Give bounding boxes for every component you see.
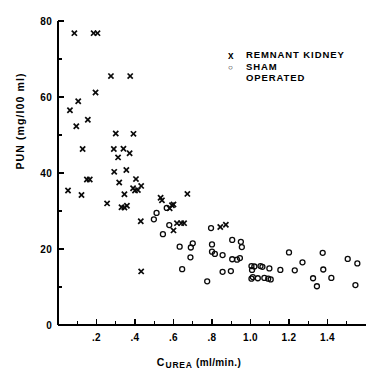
scatter-plot-figure: 020406080.2.4.6.81.01.21.4 PUN (mg/I00 m… [0,0,388,382]
legend-item-sham-operated: ○ SHAM OPERATED [228,62,384,83]
data-point-x [131,131,136,136]
data-point-x [124,167,129,172]
data-point-x [108,74,113,79]
data-point-circle [355,261,360,266]
data-point-circle [287,250,292,255]
data-point-circle [167,223,172,228]
data-point-x [111,146,116,151]
data-point-circle [292,268,297,273]
x-axis-label: CUREA (ml/min.) [157,356,241,368]
legend-item-remnant-kidney: x REMNANT KIDNEY [228,50,384,61]
data-point-circle [209,226,214,231]
data-point-x [74,124,79,129]
data-point-x [124,203,129,208]
data-point-x [85,117,90,122]
data-point-circle [160,232,165,237]
data-point-circle [180,267,185,272]
x-axis-label-wrapper: CUREA (ml/min.) [104,352,294,370]
x-axis-tick-label: .8 [208,332,217,343]
data-point-x [122,192,127,197]
data-point-circle [353,283,358,288]
x-axis-label-subscript: UREA [165,360,192,370]
data-point-circle [210,242,215,247]
legend-x-marker-icon: x [228,50,246,61]
data-point-circle [311,276,316,281]
x-axis-tick-label: 1.0 [243,332,258,343]
data-point-x [127,151,132,156]
data-point-circle [238,239,243,244]
legend-label-sham-operated: SHAM OPERATED [246,62,305,83]
series-remnant-kidney-points [65,31,228,274]
data-point-x [79,192,84,197]
y-axis-tick-label: 40 [40,168,52,179]
legend: x REMNANT KIDNEY ○ SHAM OPERATED [228,50,384,84]
data-point-circle [255,276,260,281]
y-axis-tick-label: 60 [40,92,52,103]
x-axis-tick-label: .4 [131,332,140,343]
legend-label-remnant-kidney: REMNANT KIDNEY [246,50,345,61]
data-point-circle [239,245,244,250]
data-point-circle [314,284,319,289]
data-point-circle [220,253,225,258]
data-point-x [139,269,144,274]
y-axis-label-wrapper: PUN (mg/I00 ml) [10,46,28,196]
x-axis-tick-label: 1.4 [320,332,335,343]
data-point-x [133,176,138,181]
data-point-x [117,180,122,185]
data-point-circle [320,250,325,255]
data-point-circle [267,266,272,271]
data-point-x [72,31,77,36]
x-axis-tick-label: 1.2 [282,332,297,343]
legend-circle-marker-icon: ○ [228,62,246,73]
data-point-circle [205,279,210,284]
data-point-x [128,74,133,79]
y-axis-tick-label: 0 [46,320,52,331]
data-point-circle [220,269,225,274]
data-point-x [80,146,85,151]
data-point-x [115,155,120,160]
series-sham-operated-points [151,205,359,288]
data-point-circle [228,269,233,274]
data-point-x [65,188,70,193]
data-point-circle [154,210,159,215]
y-axis-tick-label: 20 [40,244,52,255]
data-point-x [112,169,117,174]
data-point-circle [188,255,193,260]
data-point-circle [345,256,350,261]
data-point-x [138,219,143,224]
data-point-x [67,108,72,113]
data-point-x [185,191,190,196]
data-point-circle [300,260,305,265]
x-axis-label-units: (ml/min.) [193,357,241,368]
data-point-x [218,224,223,229]
data-point-x [223,222,228,227]
data-point-x [95,31,100,36]
data-point-circle [151,217,156,222]
data-point-circle [230,237,235,242]
data-point-circle [329,275,334,280]
data-point-circle [321,267,326,272]
data-point-x [113,131,118,136]
y-axis-label: PUN (mg/I00 ml) [14,73,26,170]
data-point-x [93,90,98,95]
data-point-x [104,201,109,206]
data-point-x [121,146,126,151]
y-axis-tick-label: 80 [40,16,52,27]
data-point-x [171,228,176,233]
data-point-circle [177,244,182,249]
data-point-x [76,99,81,104]
x-axis-tick-label: .6 [169,332,178,343]
data-point-circle [278,267,283,272]
x-axis-tick-label: .2 [92,332,101,343]
